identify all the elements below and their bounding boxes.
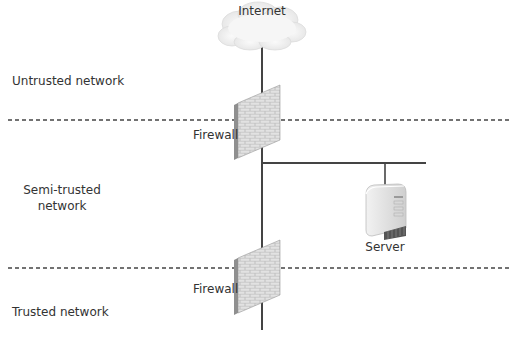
brick-wall-icon-outer xyxy=(234,85,280,160)
zone-label-untrusted: Untrusted network xyxy=(12,74,124,88)
brick-wall-icon-inner xyxy=(234,240,280,315)
internet-label: Internet xyxy=(232,4,292,18)
zone-label-trusted: Trusted network xyxy=(12,305,109,319)
zone-label-semi-trusted-line1: Semi-trusted xyxy=(22,182,102,198)
firewall-inner-label: Firewall xyxy=(193,282,238,296)
server-label: Server xyxy=(360,240,410,254)
zone-label-semi-trusted-line2: network xyxy=(22,198,102,214)
zone-label-semi-trusted: Semi-trusted network xyxy=(22,182,102,214)
firewall-outer-label: Firewall xyxy=(193,128,238,142)
server-tower-icon xyxy=(366,184,406,240)
network-diagram xyxy=(0,0,526,342)
